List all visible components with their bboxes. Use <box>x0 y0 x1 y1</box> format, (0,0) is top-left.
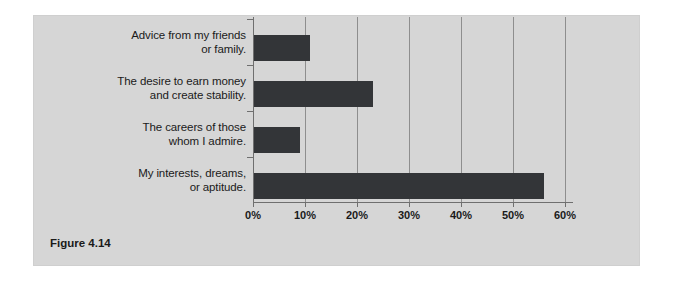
x-axis-tick <box>253 202 254 207</box>
x-axis-label-0: 0% <box>233 209 273 221</box>
category-label-interests-dreams-aptitude: My interests, dreams, or aptitude. <box>46 167 246 194</box>
bar-desire-earn-money[interactable] <box>253 81 373 107</box>
x-axis-label-50: 50% <box>493 209 533 221</box>
bar-careers-admire[interactable] <box>253 127 300 153</box>
x-axis-label-30: 30% <box>389 209 429 221</box>
x-axis-label-40: 40% <box>441 209 481 221</box>
x-axis-tick <box>565 202 566 207</box>
plot-area <box>253 17 565 202</box>
x-axis-tick <box>461 202 462 207</box>
category-label-desire-earn-money: The desire to earn money and create stab… <box>46 75 246 102</box>
category-label-line: My interests, dreams, <box>46 167 246 181</box>
y-axis-tick <box>247 157 254 158</box>
category-label-line: The desire to earn money <box>46 75 246 89</box>
figure-caption: Figure 4.14 <box>50 237 111 249</box>
category-label-line: Advice from my friends <box>46 29 246 43</box>
y-axis-tick <box>247 65 254 66</box>
y-axis-line <box>253 17 254 203</box>
y-axis-tick <box>247 19 254 20</box>
x-axis-label-20: 20% <box>337 209 377 221</box>
category-label-line: and create stability. <box>46 89 246 103</box>
x-axis-tick <box>513 202 514 207</box>
y-axis-tick <box>247 111 254 112</box>
x-axis-label-60: 60% <box>545 209 585 221</box>
x-axis-tick <box>357 202 358 207</box>
x-axis-label-10: 10% <box>285 209 325 221</box>
category-label-line: or family. <box>46 43 246 57</box>
category-label-advice-friends-family: Advice from my friends or family. <box>46 29 246 56</box>
category-label-careers-admire: The careers of those whom I admire. <box>46 121 246 148</box>
x-axis-line <box>253 202 573 203</box>
bar-advice-friends-family[interactable] <box>253 35 310 61</box>
gridline-60 <box>565 17 566 202</box>
x-axis-tick <box>305 202 306 207</box>
category-label-line: The careers of those <box>46 121 246 135</box>
category-label-line: or aptitude. <box>46 181 246 195</box>
x-axis-tick <box>409 202 410 207</box>
figure-panel: Advice from my friends or family. The de… <box>33 15 640 266</box>
category-label-line: whom I admire. <box>46 135 246 149</box>
bar-interests-dreams-aptitude[interactable] <box>253 173 544 199</box>
